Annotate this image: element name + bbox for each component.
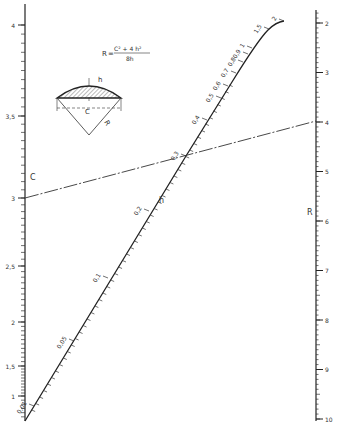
r-tick-label: 6 [325, 218, 329, 225]
c-tick-label: 2,5 [5, 263, 15, 270]
h-tick-label: 0,2 [132, 205, 143, 217]
c-scale: 43,532,521,51 C [5, 4, 36, 421]
h-tick-label: 0,01 [15, 400, 28, 415]
formula-denominator: 8h [126, 55, 134, 62]
sketch-h-label: h [98, 76, 102, 84]
c-tick-label: 3 [11, 195, 15, 202]
sketch-r-label: R [102, 119, 111, 127]
h-tick-label: 1,5 [252, 23, 263, 35]
c-tick-label: 1 [11, 393, 15, 400]
index-line [25, 121, 316, 198]
h-scale: 0,010,050,10,20,30,40,50,60,70,80,911,52… [15, 15, 284, 421]
r-tick-label: 8 [325, 317, 329, 324]
r-tick-label: 5 [325, 168, 329, 175]
r-tick-label: 10 [325, 416, 333, 423]
h-tick-label: 0,9 [231, 48, 242, 60]
h-tick-label: 0,4 [190, 114, 201, 126]
nomogram: 43,532,521,51 C 2345678910 R 0,010,050,1… [0, 0, 340, 428]
segment-sketch: h C R [57, 76, 121, 135]
h-tick-label: 0,1 [91, 272, 102, 284]
r-scale: 2345678910 R [307, 10, 333, 423]
formula: R = C² + 4 h² 8h [102, 45, 150, 62]
c-tick-label: 2 [11, 319, 15, 326]
h-tick-label: 0,5 [204, 92, 215, 104]
c-tick-label: 4 [11, 22, 15, 29]
h-scale-name: h [159, 196, 164, 205]
r-scale-name: R [307, 208, 313, 217]
r-tick-label: 2 [325, 20, 329, 27]
r-tick-label: 3 [325, 69, 329, 76]
r-tick-label: 9 [325, 366, 329, 373]
h-tick-label: 1 [238, 42, 246, 49]
r-tick-label: 4 [325, 119, 329, 126]
h-tick-label: 0,6 [211, 80, 222, 92]
sketch-c-label: C [85, 108, 90, 116]
c-tick-label: 3,5 [5, 113, 15, 120]
r-tick-label: 7 [325, 267, 329, 274]
formula-numerator: C² + 4 h² [114, 45, 142, 52]
c-scale-name: C [30, 173, 36, 182]
formula-lhs: R [102, 50, 107, 58]
h-tick-label: 2 [270, 15, 278, 22]
c-tick-label: 1,5 [5, 363, 15, 370]
h-tick-label: 0,7 [219, 67, 230, 79]
h-tick-label: 0,05 [55, 335, 68, 350]
